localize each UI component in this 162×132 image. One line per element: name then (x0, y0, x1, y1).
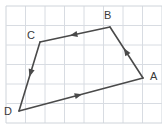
edge-C-D-arrowhead-icon (29, 69, 35, 77)
vertex-label-d: D (4, 106, 12, 117)
quadrilateral-diagram: ABCD (0, 0, 162, 132)
polygon-edges (19, 27, 143, 111)
vertex-label-c: C (27, 30, 35, 41)
vertex-label-a: A (150, 71, 157, 82)
vector-polygon-layer (0, 0, 162, 132)
edge-A-B-arrowhead-icon (124, 48, 131, 56)
vertex-label-b: B (104, 10, 111, 21)
